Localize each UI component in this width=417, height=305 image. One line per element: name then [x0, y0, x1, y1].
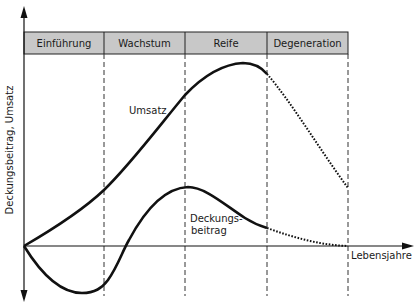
phase-wachstum: Wachstum	[118, 38, 170, 49]
y-axis-label: Deckungsbeitrag, Umsatz	[4, 86, 15, 215]
umsatz-label: Umsatz	[129, 105, 167, 116]
y-axis-arrow-down-icon	[21, 290, 28, 302]
phase-degeneration: Degeneration	[273, 38, 341, 49]
x-axis: Lebensjahre	[24, 243, 414, 262]
x-axis-arrow-right-icon	[402, 243, 414, 250]
product-lifecycle-diagram: Einführung Wachstum Reife Degeneration D…	[0, 0, 417, 305]
x-axis-label: Lebensjahre	[351, 250, 412, 261]
phase-einfuehrung: Einführung	[37, 38, 92, 49]
deckungsbeitrag-label-line1: Deckungs-	[190, 213, 243, 224]
umsatz-curve: Umsatz	[24, 63, 348, 246]
deckungsbeitrag-label-line2: beitrag	[191, 225, 227, 236]
y-axis: Deckungsbeitrag, Umsatz	[4, 6, 28, 302]
phase-reife: Reife	[213, 38, 238, 49]
phase-dividers	[104, 54, 348, 296]
y-axis-arrow-up-icon	[21, 6, 28, 18]
phase-header: Einführung Wachstum Reife Degeneration	[24, 32, 348, 54]
deckungsbeitrag-curve: Deckungs- beitrag	[24, 187, 348, 293]
